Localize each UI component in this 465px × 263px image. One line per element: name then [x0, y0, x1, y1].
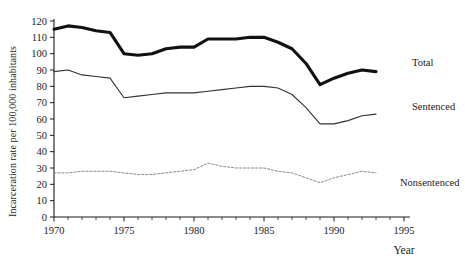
x-tick-label: 1975 — [114, 225, 135, 236]
series-line-nonsentenced — [54, 163, 376, 183]
series-line-sentenced — [54, 70, 376, 124]
x-tick-label: 1995 — [394, 225, 415, 236]
incarceration-rate-chart: Incarceration rate per 100,000 inhabitan… — [0, 0, 465, 263]
series-label-total: Total — [412, 57, 434, 68]
x-tick-label: 1980 — [184, 225, 205, 236]
y-tick-label: 50 — [37, 130, 48, 141]
y-tick-label: 110 — [32, 32, 47, 43]
y-tick-label: 40 — [37, 146, 48, 157]
series-labels-group: TotalSentencedNonsentenced — [400, 57, 460, 188]
series-line-total — [54, 26, 376, 85]
x-tick-label: 1990 — [324, 225, 345, 236]
series-label-nonsentenced: Nonsentenced — [400, 177, 460, 188]
y-tick-label: 60 — [37, 114, 48, 125]
y-tick-label: 70 — [37, 97, 48, 108]
series-group — [54, 26, 376, 183]
y-tick-label: 10 — [37, 195, 48, 206]
y-tick-label: 100 — [31, 48, 47, 59]
y-tick-label: 30 — [37, 163, 48, 174]
tick-labels-group: 0102030405060708090100110120197019751980… — [31, 16, 414, 236]
y-tick-label: 120 — [31, 16, 47, 27]
series-label-sentenced: Sentenced — [412, 101, 456, 112]
y-tick-label: 20 — [37, 179, 48, 190]
chart-canvas: 0102030405060708090100110120197019751980… — [0, 0, 465, 263]
y-tick-label: 0 — [42, 212, 47, 223]
x-axis-title: Year — [393, 244, 414, 256]
y-tick-label: 90 — [37, 65, 48, 76]
y-tick-label: 80 — [37, 81, 48, 92]
x-tick-label: 1970 — [44, 225, 65, 236]
axes-group — [50, 19, 410, 222]
x-tick-label: 1985 — [254, 225, 275, 236]
